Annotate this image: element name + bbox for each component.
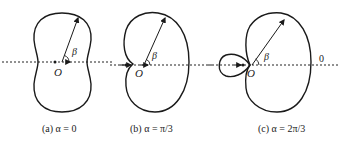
- origin-label-c: O: [247, 67, 255, 79]
- figure-a: [2, 13, 112, 112]
- origin-label-b: O: [135, 67, 143, 79]
- point-dot-a: [54, 61, 57, 64]
- beta-label-c: β: [263, 51, 269, 62]
- caption-b: (b) α = π/3: [130, 123, 173, 134]
- caption-c: (c) α = 2π/3: [258, 123, 305, 134]
- angle-arc-a: [65, 56, 70, 63]
- figure-b: [110, 13, 212, 112]
- caption-a: (a) α = 0: [42, 123, 76, 134]
- curve-b: [124, 13, 189, 112]
- axis-end-label-c: 0: [319, 53, 324, 64]
- angle-arc-b: [147, 60, 151, 66]
- beta-label-b: β: [151, 50, 157, 61]
- origin-label-a: O: [54, 66, 62, 78]
- point-dot-c: [242, 64, 245, 67]
- beta-label-a: β: [71, 46, 77, 57]
